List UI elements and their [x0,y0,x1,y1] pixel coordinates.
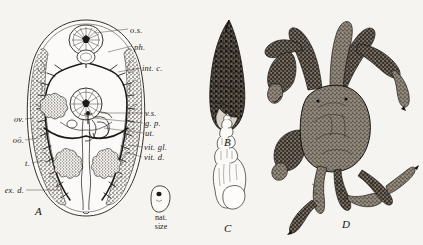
label-testis: t. [2,159,30,168]
figure-caption-c: C [224,222,231,234]
natural-size-caption: nat. size [146,214,176,231]
label-oral-sucker: o.s. [130,26,143,35]
label-uterus: ut. [145,129,154,138]
figure-caption-d: D [342,218,350,230]
label-ootype: oö. [2,136,24,145]
label-excretory-duct: ex. d. [2,186,24,195]
label-vitelline-gland: vit. gl. [144,143,167,152]
ventral-sucker [70,88,102,120]
label-ovary: ov. [2,115,24,124]
engraving-plate: o.s. ph. int. c. v.s. g. p. ut. vit. gl.… [0,0,423,245]
label-intestinal-caecum: int. c. [142,64,163,73]
label-ventral-sucker: v.s. [145,109,157,118]
natural-size-line2: size [146,223,176,232]
figure-a-drawing [0,0,423,245]
figure-caption-b: B [224,136,231,148]
figure-caption-a: A [35,205,42,217]
label-vitelline-duct: vit. d. [144,153,165,162]
ootype [67,120,77,128]
figure-d-drawing [265,21,419,235]
label-pharynx: ph. [134,43,145,52]
label-genital-pore: g. p. [145,119,161,128]
natural-size-silhouette [151,186,170,212]
